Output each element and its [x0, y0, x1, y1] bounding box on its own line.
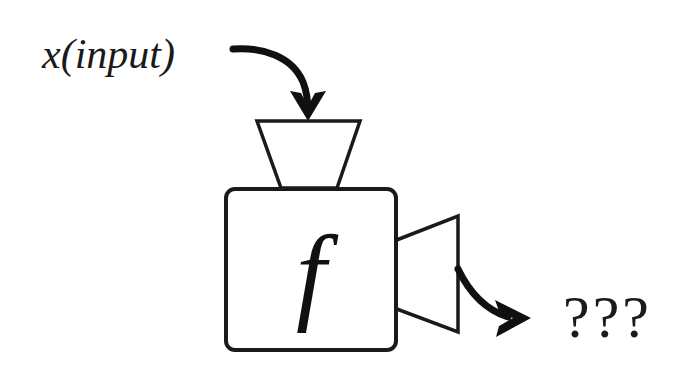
output-arrow-head-icon — [495, 300, 531, 337]
input-arrow — [233, 49, 326, 121]
output-funnel — [394, 216, 458, 332]
figure-canvas: x(input) f ??? — [0, 0, 674, 376]
input-arrow-shaft — [233, 49, 308, 112]
output-label: ??? — [563, 284, 652, 350]
input-label: x(input) — [41, 31, 175, 78]
function-diagram: x(input) f ??? — [0, 0, 674, 376]
input-funnel — [257, 121, 360, 188]
output-arrow — [458, 269, 531, 337]
